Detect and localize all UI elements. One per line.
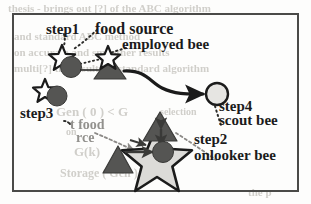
step3-bee-icon [47, 86, 67, 106]
label-step1: step1 [46, 22, 79, 37]
label-onlooker-bee: onlooker bee [194, 148, 276, 163]
label-best-food-line2: rce [76, 131, 94, 145]
step1-employed-bee-icon [61, 57, 82, 78]
figure-canvas: thesis - brings out [?] of the ABC algor… [0, 0, 311, 204]
leader-step1-to-mid [80, 59, 102, 64]
label-food-source: food source [95, 21, 173, 37]
label-employed-bee: employed bee [122, 37, 209, 52]
leader-best-food-source-arrow [95, 133, 134, 150]
flight-path-to-scout [124, 71, 203, 94]
step2-onlooker-bee-icon [153, 142, 174, 163]
label-step3: step3 [20, 106, 53, 121]
label-step2: step2 [194, 132, 227, 147]
label-scout-bee: scout bee [219, 113, 278, 128]
